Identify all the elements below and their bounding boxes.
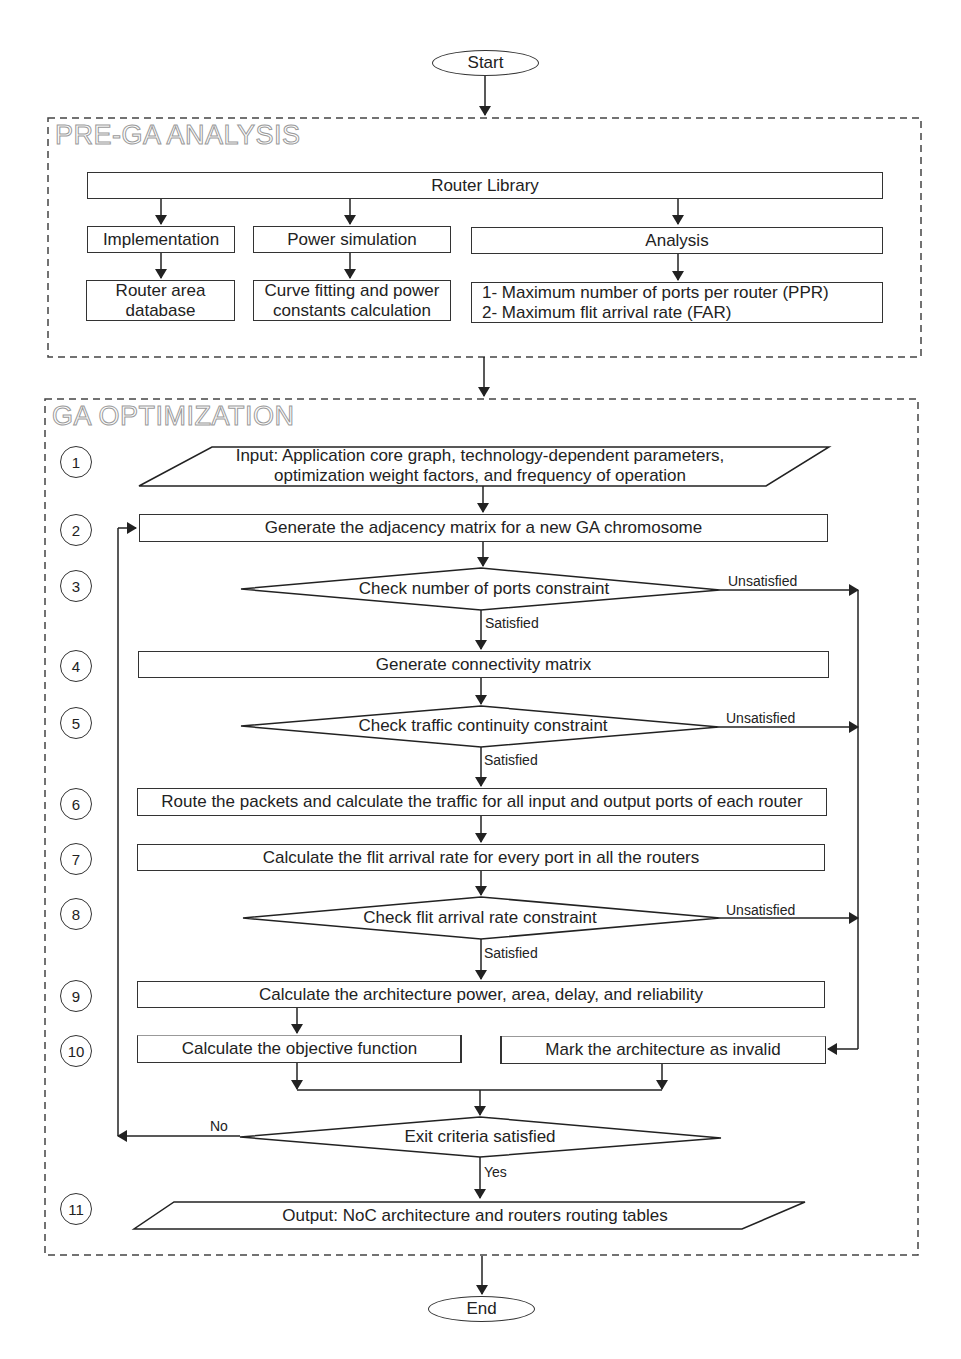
mark-invalid-label: Mark the architecture as invalid: [545, 1040, 780, 1060]
far-line: 2- Maximum flit arrival rate (FAR): [482, 303, 731, 323]
route-packets-box: Route the packets and calculate the traf…: [137, 788, 827, 816]
router-area-line1: Router area: [116, 281, 206, 301]
flit-rate-constraint-decision: Check flit arrival rate constraint: [363, 908, 596, 928]
edge-unsatisfied-8: Unsatisfied: [726, 902, 795, 918]
analysis-box: Analysis: [471, 227, 883, 254]
router-area-line2: database: [126, 301, 196, 321]
step-number-3: 3: [60, 570, 92, 602]
ga-title: GA OPTIMIZATION: [52, 401, 295, 432]
pre-ga-title: PRE-GA ANALYSIS: [55, 120, 301, 151]
traffic-continuity-decision: Check traffic continuity constraint: [358, 716, 607, 736]
start-terminal: Start: [432, 50, 539, 76]
power-simulation-label: Power simulation: [287, 230, 416, 250]
mark-invalid-left-edge: [500, 1036, 502, 1064]
curve-fitting-box: Curve fitting and power constants calcul…: [253, 280, 451, 321]
flit-arrival-rate-label: Calculate the flit arrival rate for ever…: [263, 848, 700, 868]
step-number-10: 10: [60, 1035, 92, 1067]
step-number-11: 11: [60, 1193, 92, 1225]
generate-adjacency-box: Generate the adjacency matrix for a new …: [139, 514, 828, 542]
edge-unsatisfied-5: Unsatisfied: [726, 710, 795, 726]
curve-fitting-line1: Curve fitting and power: [265, 281, 440, 301]
generate-adjacency-label: Generate the adjacency matrix for a new …: [265, 518, 702, 538]
implementation-label: Implementation: [103, 230, 219, 250]
router-library-box: Router Library: [87, 172, 883, 199]
mark-invalid-box: Mark the architecture as invalid: [501, 1036, 826, 1064]
power-simulation-box: Power simulation: [253, 226, 451, 253]
edge-no: No: [210, 1118, 228, 1134]
router-library-label: Router Library: [431, 176, 539, 196]
end-label: End: [466, 1299, 496, 1319]
step-number-4: 4: [60, 650, 92, 682]
step-number-1: 1: [60, 446, 92, 478]
step-number-2: 2: [60, 514, 92, 546]
router-area-database-box: Router area database: [86, 280, 235, 321]
edge-unsatisfied-3: Unsatisfied: [728, 573, 797, 589]
objective-function-label: Calculate the objective function: [182, 1039, 417, 1059]
edge-yes: Yes: [484, 1164, 507, 1180]
input-step-text: Input: Application core graph, technolog…: [236, 446, 725, 486]
analysis-results-box: 1- Maximum number of ports per router (P…: [471, 282, 883, 323]
output-step-text: Output: NoC architecture and routers rou…: [282, 1206, 668, 1226]
step-number-7: 7: [60, 843, 92, 875]
input-line1: Input: Application core graph, technolog…: [236, 446, 725, 466]
connectors-layer: [0, 0, 961, 1359]
step-number-9: 9: [60, 980, 92, 1012]
objective-function-right-edge: [460, 1035, 462, 1063]
input-line2: optimization weight factors, and frequen…: [236, 466, 725, 486]
objective-function-box: Calculate the objective function: [137, 1035, 461, 1063]
route-packets-label: Route the packets and calculate the traf…: [161, 792, 802, 812]
curve-fitting-line2: constants calculation: [273, 301, 431, 321]
architecture-metrics-box: Calculate the architecture power, area, …: [137, 981, 825, 1008]
analysis-label: Analysis: [645, 231, 708, 251]
edge-satisfied-5: Satisfied: [484, 752, 538, 768]
flowchart-canvas: Start End PRE-GA ANALYSIS Router Library…: [0, 0, 961, 1359]
ppr-line: 1- Maximum number of ports per router (P…: [482, 283, 829, 303]
end-terminal: End: [428, 1296, 535, 1322]
step-number-6: 6: [60, 788, 92, 820]
start-label: Start: [468, 53, 504, 73]
ports-constraint-decision: Check number of ports constraint: [359, 579, 609, 599]
generate-connectivity-label: Generate connectivity matrix: [376, 655, 591, 675]
flit-arrival-rate-box: Calculate the flit arrival rate for ever…: [137, 844, 825, 871]
edge-satisfied-8: Satisfied: [484, 945, 538, 961]
step-number-5: 5: [60, 707, 92, 739]
generate-connectivity-box: Generate connectivity matrix: [138, 651, 829, 678]
exit-criteria-decision: Exit criteria satisfied: [404, 1127, 555, 1147]
architecture-metrics-label: Calculate the architecture power, area, …: [259, 985, 703, 1005]
implementation-box: Implementation: [87, 226, 235, 253]
step-number-8: 8: [60, 898, 92, 930]
edge-satisfied-3: Satisfied: [485, 615, 539, 631]
